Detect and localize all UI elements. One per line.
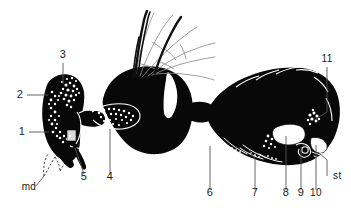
- label-5: 5: [81, 170, 88, 182]
- label-2: 2: [17, 88, 24, 100]
- label-st: st: [333, 170, 342, 181]
- label-9: 9: [298, 186, 305, 198]
- label-1: 1: [19, 125, 26, 137]
- label-10: 10: [310, 187, 322, 198]
- label-6: 6: [207, 186, 214, 198]
- label-8: 8: [283, 186, 290, 198]
- anatomy-figure: 321md54678910st11: [0, 0, 351, 210]
- label-11: 11: [321, 53, 332, 64]
- label-7: 7: [252, 186, 259, 198]
- anatomy-figure-canvas: 321md54678910st11: [0, 0, 351, 210]
- label-md: md: [22, 181, 37, 192]
- label-4: 4: [107, 170, 114, 182]
- label-3: 3: [60, 48, 67, 60]
